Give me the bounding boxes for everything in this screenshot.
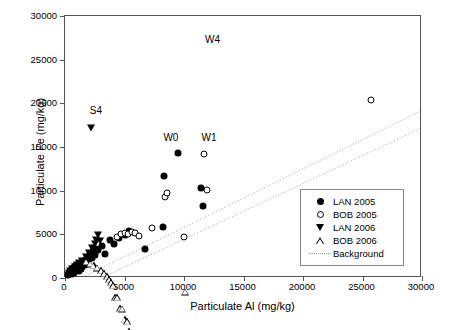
point-annotation-w1: W1 xyxy=(201,132,216,143)
y-tick xyxy=(60,278,65,279)
data-point xyxy=(109,282,117,289)
legend-item[interactable]: LAN 2006 xyxy=(307,221,397,234)
point-annotation-s4: S4 xyxy=(90,105,102,116)
legend-item[interactable]: Background xyxy=(307,247,397,260)
y-tick xyxy=(60,191,65,192)
point-annotation-w4: W4 xyxy=(205,34,220,45)
legend-label: BOB 2005 xyxy=(333,209,377,220)
data-point xyxy=(148,224,155,231)
legend-marker-open-circle-icon xyxy=(307,211,333,218)
legend-label: LAN 2006 xyxy=(333,222,375,233)
y-tick xyxy=(60,103,65,104)
legend-label: Background xyxy=(333,248,384,259)
data-point xyxy=(141,246,148,253)
legend-marker-filled-triangle-down-icon xyxy=(307,224,333,231)
legend-item[interactable]: LAN 2005 xyxy=(307,195,397,208)
data-point xyxy=(118,305,126,312)
y-tick xyxy=(60,16,65,17)
data-point xyxy=(135,232,142,239)
chart-legend[interactable]: LAN 2005BOB 2005LAN 2006BOB 2006Backgrou… xyxy=(300,189,404,266)
data-point xyxy=(160,172,167,179)
legend-item[interactable]: BOB 2006 xyxy=(307,234,397,247)
x-tick xyxy=(244,276,245,281)
y-axis-title: Particulate Fe (mg/kg) xyxy=(34,52,46,252)
data-point xyxy=(123,317,131,324)
data-point xyxy=(201,150,208,157)
data-point xyxy=(181,288,189,295)
scatter-chart-figure: Particulate Fe (mg/kg) Particulate Al (m… xyxy=(0,0,452,330)
data-point xyxy=(102,251,109,258)
x-tick xyxy=(125,276,126,281)
data-point xyxy=(181,233,188,240)
data-point xyxy=(200,202,207,209)
data-point xyxy=(175,150,182,157)
legend-marker-filled-circle-icon xyxy=(307,198,333,205)
legend-marker-dotted-line-icon xyxy=(307,253,333,254)
y-tick xyxy=(60,147,65,148)
legend-label: LAN 2005 xyxy=(333,196,375,207)
data-point xyxy=(96,238,104,245)
x-tick xyxy=(303,276,304,281)
x-tick xyxy=(184,276,185,281)
data-point xyxy=(159,224,166,231)
legend-marker-open-triangle-up-icon xyxy=(307,237,333,244)
data-point xyxy=(367,96,374,103)
x-tick xyxy=(422,276,423,281)
x-tick xyxy=(363,276,364,281)
legend-item[interactable]: BOB 2005 xyxy=(307,208,397,221)
point-annotation-w0: W0 xyxy=(163,132,178,143)
data-point xyxy=(87,124,95,131)
data-point xyxy=(164,189,171,196)
y-tick xyxy=(60,234,65,235)
y-tick xyxy=(60,60,65,61)
data-point xyxy=(90,247,98,254)
data-point xyxy=(203,186,210,193)
legend-label: BOB 2006 xyxy=(333,235,377,246)
data-point xyxy=(113,293,121,300)
